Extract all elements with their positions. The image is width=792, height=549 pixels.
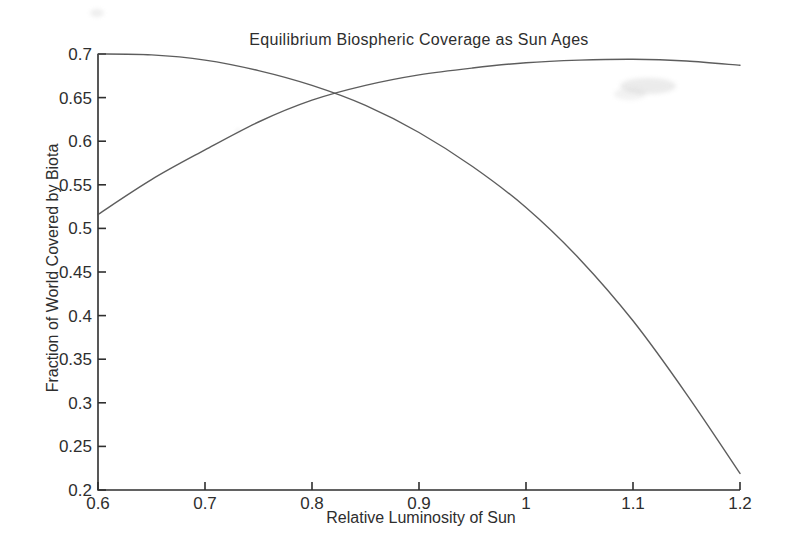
x-tick-label: 0.8 bbox=[300, 494, 324, 513]
x-tick-label: 0.7 bbox=[193, 494, 217, 513]
chart-title: Equilibrium Biospheric Coverage as Sun A… bbox=[249, 31, 588, 48]
y-tick-label: 0.65 bbox=[59, 89, 92, 108]
y-tick-label: 0.25 bbox=[59, 437, 92, 456]
y-tick-label: 0.7 bbox=[68, 45, 92, 64]
y-tick-label: 0.35 bbox=[59, 350, 92, 369]
axis-frame bbox=[98, 54, 740, 490]
x-tick-label: 1.2 bbox=[728, 494, 752, 513]
x-tick-label: 0.9 bbox=[407, 494, 431, 513]
figure-container: Equilibrium Biospheric Coverage as Sun A… bbox=[0, 0, 792, 549]
scan-smudge bbox=[90, 9, 104, 17]
y-axis-ticks: 0.20.250.30.350.40.450.50.550.60.650.7 bbox=[59, 45, 106, 500]
x-tick-label: 1 bbox=[521, 494, 530, 513]
y-tick-label: 0.55 bbox=[59, 176, 92, 195]
y-tick-label: 0.5 bbox=[68, 219, 92, 238]
x-axis-ticks: 0.60.70.80.911.11.2 bbox=[86, 482, 752, 513]
rising-coverage-curve bbox=[98, 59, 740, 214]
y-tick-label: 0.45 bbox=[59, 263, 92, 282]
y-tick-label: 0.4 bbox=[68, 307, 92, 326]
x-tick-label: 0.6 bbox=[86, 494, 110, 513]
scan-smudge bbox=[620, 78, 676, 94]
x-tick-label: 1.1 bbox=[621, 494, 645, 513]
scan-smudge bbox=[614, 88, 646, 100]
y-tick-label: 0.6 bbox=[68, 132, 92, 151]
scan-artifacts bbox=[90, 9, 676, 133]
declining-coverage-curve bbox=[98, 54, 740, 473]
y-tick-label: 0.3 bbox=[68, 394, 92, 413]
biospheric-coverage-chart: Equilibrium Biospheric Coverage as Sun A… bbox=[0, 0, 792, 549]
plot-curves bbox=[98, 54, 740, 473]
